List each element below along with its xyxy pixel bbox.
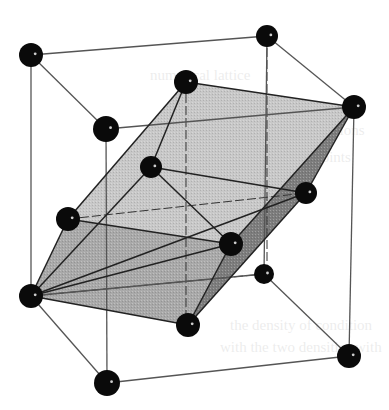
- atom-highlight: [110, 380, 113, 383]
- atom-L: [176, 313, 200, 337]
- ghost-text: the density of condition: [230, 317, 373, 333]
- atom-highlight: [266, 272, 269, 275]
- atom-highlight: [357, 104, 360, 107]
- atom-M: [337, 344, 361, 368]
- atom-I: [219, 232, 243, 256]
- atom-highlight: [308, 191, 311, 194]
- atom-G: [295, 182, 317, 204]
- cube-edge: [106, 129, 107, 383]
- atom-highlight: [34, 293, 37, 296]
- atom-E: [174, 70, 198, 94]
- atom-highlight: [189, 79, 192, 82]
- atom-A: [19, 43, 43, 67]
- atom-highlight: [234, 241, 237, 244]
- atom-highlight: [191, 322, 194, 325]
- atom-C: [93, 116, 119, 142]
- atom-D: [342, 95, 366, 119]
- atom-K: [19, 284, 43, 308]
- ghost-text: numerical lattice: [150, 67, 251, 83]
- atom-highlight: [71, 216, 74, 219]
- lattice-diagram: numerical latticetwo dimensionsof its po…: [0, 0, 389, 410]
- atom-highlight: [153, 165, 156, 168]
- atom-B: [256, 25, 278, 47]
- cube-edge: [31, 55, 106, 129]
- atom-F: [140, 156, 162, 178]
- atom-highlight: [109, 126, 112, 129]
- cube-edge: [31, 296, 107, 383]
- atom-highlight: [269, 34, 272, 37]
- atom-H: [56, 207, 80, 231]
- atom-N: [94, 370, 120, 396]
- cube-edge: [31, 36, 267, 55]
- atom-highlight: [352, 353, 355, 356]
- cube-edge: [107, 356, 349, 383]
- atom-J: [254, 264, 274, 284]
- atom-highlight: [34, 52, 37, 55]
